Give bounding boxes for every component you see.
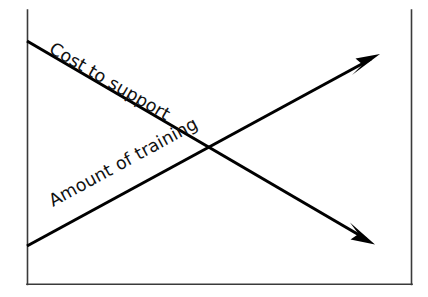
chart-container: Cost to support Amount of training xyxy=(0,0,428,297)
cost-to-support-label-group: Cost to support xyxy=(46,38,174,124)
amount-of-training-label-group: Amount of training xyxy=(45,113,201,210)
chart-axes-frame xyxy=(27,10,412,285)
amount-of-training-label: Amount of training xyxy=(45,113,201,210)
amount-of-training-line xyxy=(27,59,371,246)
cost-to-support-label: Cost to support xyxy=(46,38,174,124)
amount-of-training-arrow-icon xyxy=(352,54,380,75)
chart-canvas: Cost to support Amount of training xyxy=(0,0,428,297)
